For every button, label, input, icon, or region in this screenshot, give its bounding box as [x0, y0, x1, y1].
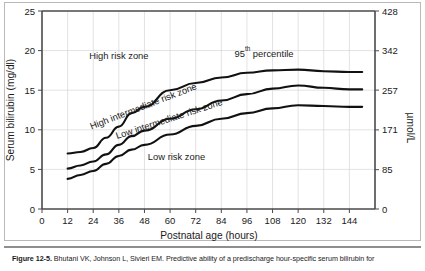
zone-annotation: 95th percentile	[234, 44, 293, 59]
figure-caption-bar: Figure 12-5. Bhutani VK, Johnson L, Sivi…	[4, 246, 421, 269]
zone-annotation: Low risk zone	[148, 151, 205, 162]
x-tick-label: 0	[39, 215, 44, 226]
x-tick-label: 24	[88, 215, 99, 226]
y-tick-label: 15	[24, 85, 35, 96]
y2-tick-label: 0	[382, 204, 387, 215]
tick-marks-group	[38, 11, 379, 213]
y-tick-label: 20	[24, 45, 35, 56]
y-axis-title: Serum bilirubin (mg/dl)	[5, 59, 16, 161]
y-tick-label: 10	[24, 124, 35, 135]
risk-zone-curves-group	[68, 70, 363, 179]
y2-axis-title: µmol/L	[405, 113, 416, 144]
figure-number: Figure 12-5.	[12, 254, 52, 263]
y2-tick-label: 342	[382, 45, 398, 56]
x-tick-label: 108	[265, 215, 281, 226]
x-tick-label: 72	[190, 215, 201, 226]
x-tick-label: 36	[114, 215, 125, 226]
y-tick-label: 0	[30, 204, 35, 215]
figure-caption: Figure 12-5. Bhutani VK, Johnson L, Sivi…	[12, 255, 374, 263]
x-tick-label: 144	[341, 215, 357, 226]
x-axis-title: Postnatal age (hours)	[160, 230, 257, 241]
y2-tick-label: 85	[382, 164, 393, 175]
y2-tick-label: 257	[382, 85, 398, 96]
y-tick-label: 25	[24, 6, 35, 17]
x-tick-label: 84	[216, 215, 227, 226]
bhutani-nomogram-chart: 01224364860728496108120132144 0510152025…	[0, 0, 425, 246]
x-tick-label: 48	[139, 215, 150, 226]
y2-tick-labels-group: 085171257342428	[382, 6, 398, 215]
x-tick-label: 96	[242, 215, 253, 226]
y2-tick-label: 428	[382, 6, 398, 17]
zone-annotation: High risk zone	[89, 50, 148, 61]
y2-tick-label: 171	[382, 124, 398, 135]
x-tick-labels-group: 01224364860728496108120132144	[39, 215, 357, 226]
x-tick-label: 12	[62, 215, 73, 226]
x-tick-label: 60	[165, 215, 176, 226]
y-tick-label: 5	[30, 164, 35, 175]
y-tick-labels-group: 0510152025	[24, 6, 35, 215]
x-tick-label: 132	[316, 215, 332, 226]
x-tick-label: 120	[290, 215, 306, 226]
figure-container: 01224364860728496108120132144 0510152025…	[0, 0, 425, 271]
figure-caption-body: Bhutani VK, Johnson L, Sivieri EM. Predi…	[54, 254, 375, 263]
